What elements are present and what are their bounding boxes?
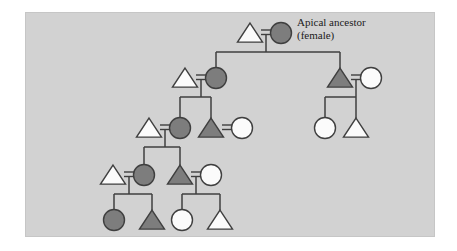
pedigree-panel-background [25, 12, 435, 237]
pedigree-figure: Apical ancestor(female) [0, 0, 457, 251]
